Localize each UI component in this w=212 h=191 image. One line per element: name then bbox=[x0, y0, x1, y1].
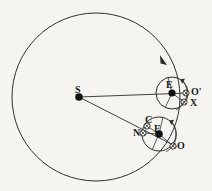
label-sun: S bbox=[75, 85, 81, 95]
radius-line-to-lower-epicycle bbox=[79, 97, 177, 147]
label-upper-epicycle-center: E bbox=[166, 80, 173, 90]
label-point-o: O bbox=[177, 141, 185, 151]
label-point-x: X bbox=[190, 98, 197, 108]
label-point-n: N bbox=[133, 128, 140, 138]
label-point-c: C bbox=[145, 115, 152, 125]
diagram-canvas bbox=[0, 0, 212, 191]
label-lower-epicycle-center: E bbox=[154, 124, 161, 134]
orbital-diagram-figure: S E O' X C N E O bbox=[0, 0, 212, 191]
deferent-circle bbox=[12, 13, 180, 181]
label-point-o-prime: O' bbox=[191, 87, 202, 97]
upper-epicycle-center-dot bbox=[168, 89, 175, 96]
deferent-direction-arrowhead bbox=[160, 55, 167, 65]
